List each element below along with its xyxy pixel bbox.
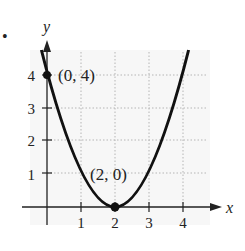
x-tick-label-4: 4 xyxy=(179,215,187,231)
x-axis-label: x xyxy=(225,199,233,216)
chart: 1 2 3 4 1 2 3 4 x y (0, 4) (2, 0) • xyxy=(0,0,245,251)
bullet: • xyxy=(2,28,8,45)
x-tick-label-1: 1 xyxy=(77,215,85,231)
x-tick-label-2: 2 xyxy=(111,215,119,231)
y-tick-label-1: 1 xyxy=(28,167,36,183)
y-tick-label-4: 4 xyxy=(28,68,36,84)
y-axis-arrow-icon xyxy=(43,40,51,52)
y-tick-label-2: 2 xyxy=(28,133,36,149)
point-2-0 xyxy=(111,203,120,212)
point-label-2-0: (2, 0) xyxy=(90,165,127,184)
point-0-4 xyxy=(43,71,51,79)
x-axis-arrow-icon xyxy=(210,203,222,211)
point-label-0-4: (0, 4) xyxy=(58,66,95,85)
y-axis-label: y xyxy=(41,18,51,36)
y-tick-label-3: 3 xyxy=(28,101,36,117)
x-tick-label-3: 3 xyxy=(145,215,153,231)
